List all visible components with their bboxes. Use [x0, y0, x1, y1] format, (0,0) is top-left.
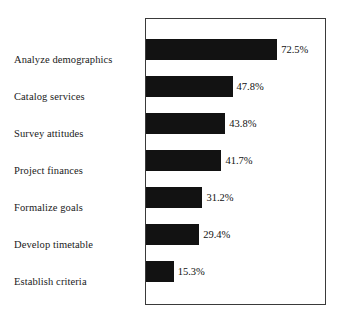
bar-row: 41.7%: [146, 150, 327, 171]
category-label: Formalize goals: [0, 202, 134, 214]
bar-value-label: 47.8%: [233, 81, 264, 93]
plot-frame: 72.5%47.8%43.8%41.7%31.2%29.4%15.3%: [145, 18, 326, 305]
bar-value-label: 31.2%: [202, 192, 233, 204]
bar-value-label: 29.4%: [199, 229, 230, 241]
bar: [146, 150, 221, 171]
bar-value-label: 41.7%: [221, 155, 252, 167]
category-label: Project finances: [0, 165, 134, 177]
bar-row: 15.3%: [146, 261, 327, 282]
bar-value-label: 43.8%: [225, 118, 256, 130]
bar: [146, 261, 174, 282]
bar: [146, 76, 233, 97]
plot-area: 72.5%47.8%43.8%41.7%31.2%29.4%15.3%: [146, 19, 325, 304]
category-label: Catalog services: [0, 91, 134, 103]
category-label: Develop timetable: [0, 239, 134, 251]
bar-row: 31.2%: [146, 187, 327, 208]
bar-row: 47.8%: [146, 76, 327, 97]
bar-value-label: 15.3%: [174, 266, 205, 278]
bar: [146, 224, 199, 245]
bar-row: 72.5%: [146, 39, 327, 60]
category-label: Analyze demographics: [0, 54, 134, 66]
bar: [146, 113, 225, 134]
category-label: Survey attitudes: [0, 128, 134, 140]
bar-row: 43.8%: [146, 113, 327, 134]
category-label-column: Analyze demographicsCatalog servicesSurv…: [0, 18, 140, 305]
bar-chart-figure: Analyze demographicsCatalog servicesSurv…: [0, 0, 342, 321]
category-label: Establish criteria: [0, 276, 134, 288]
bar-value-label: 72.5%: [277, 44, 308, 56]
bar: [146, 187, 202, 208]
bar: [146, 39, 277, 60]
bar-row: 29.4%: [146, 224, 327, 245]
